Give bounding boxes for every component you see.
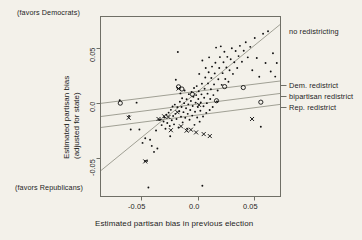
data-point — [180, 116, 182, 118]
data-point — [182, 121, 184, 123]
data-point — [176, 118, 178, 120]
data-point — [254, 37, 256, 39]
ytick-label-0: 0.05 — [88, 48, 97, 62]
data-point — [207, 93, 209, 95]
data-point — [166, 122, 168, 124]
data-point — [187, 103, 189, 105]
data-point — [194, 124, 196, 126]
data-point — [213, 83, 215, 85]
data-point — [259, 100, 263, 104]
data-point — [270, 71, 272, 73]
legend-label-dem-redistrict: Dem. redistrict — [289, 81, 338, 90]
data-point — [232, 73, 234, 75]
data-point — [193, 87, 195, 89]
data-point — [173, 123, 175, 125]
legend-label-rep-redistrict: Rep. redistrict — [289, 103, 336, 112]
data-point — [223, 51, 225, 53]
data-points — [118, 30, 278, 188]
data-point — [163, 120, 165, 122]
data-point — [209, 98, 211, 100]
data-point — [231, 47, 233, 49]
data-point — [203, 97, 205, 99]
data-point — [235, 50, 237, 52]
data-point — [211, 66, 213, 68]
data-point — [223, 61, 225, 63]
data-point — [220, 45, 222, 47]
data-point — [175, 110, 179, 114]
data-point — [205, 67, 207, 69]
legend-label-bipartisan-redistrict: bipartisan redistrict — [289, 92, 353, 101]
data-point — [136, 102, 138, 104]
data-point — [208, 71, 210, 73]
data-point — [245, 41, 247, 43]
data-point — [190, 100, 192, 102]
data-point — [171, 119, 173, 121]
data-point — [260, 126, 262, 128]
data-point — [224, 78, 226, 80]
data-point — [238, 55, 240, 57]
data-point — [226, 56, 228, 58]
data-point — [198, 90, 200, 92]
data-point — [147, 187, 149, 189]
data-point — [239, 45, 241, 47]
data-point — [194, 111, 196, 113]
data-point — [191, 115, 193, 117]
data-point — [201, 60, 203, 62]
data-point — [197, 98, 199, 100]
ytick-label-1: 0.0 — [88, 102, 97, 112]
regression-lines — [101, 24, 281, 171]
data-point — [176, 106, 178, 108]
data-point — [215, 47, 217, 49]
data-point — [258, 76, 260, 78]
data-point — [222, 72, 224, 74]
data-point — [199, 121, 201, 123]
data-point — [204, 77, 206, 79]
fit-line-dem-redistrict — [101, 81, 281, 103]
data-point — [202, 116, 204, 118]
data-point — [256, 57, 258, 59]
data-point — [227, 81, 229, 83]
data-point — [177, 51, 179, 53]
data-point — [208, 134, 212, 138]
data-point — [201, 185, 203, 187]
xtick-label-0: -0.05 — [128, 202, 145, 211]
data-point — [179, 124, 183, 128]
data-point — [207, 82, 209, 84]
data-point — [186, 98, 188, 100]
data-point — [241, 85, 245, 89]
data-point — [144, 137, 146, 139]
xtick-label-1: 0.0 — [189, 202, 200, 211]
data-point — [142, 142, 144, 144]
data-point — [185, 107, 187, 109]
data-point — [225, 67, 227, 69]
data-point — [179, 92, 181, 94]
note-favors-republicans: (favors Republicans) — [15, 183, 83, 192]
ytick-label-2: -0.05 — [88, 159, 97, 176]
data-point — [212, 106, 214, 108]
data-point — [201, 93, 203, 95]
data-point — [209, 109, 211, 111]
data-point — [217, 78, 219, 80]
data-point — [188, 93, 190, 95]
y-axis-title-line2: (adjusted for state) — [72, 92, 82, 159]
data-point — [181, 106, 183, 108]
data-point — [189, 119, 191, 121]
data-point — [272, 52, 274, 54]
data-point — [161, 124, 163, 126]
data-point — [151, 145, 153, 147]
data-point — [214, 72, 216, 74]
data-point — [172, 115, 174, 117]
data-point — [195, 94, 197, 96]
data-point — [118, 101, 122, 105]
data-point — [243, 50, 245, 52]
data-point — [210, 88, 212, 90]
data-point — [170, 109, 172, 111]
data-point — [267, 30, 269, 32]
data-point — [194, 130, 198, 134]
plot-frame — [101, 17, 281, 197]
data-point — [204, 88, 206, 90]
axis-ticks — [97, 49, 255, 201]
data-point — [196, 85, 198, 87]
data-point — [138, 129, 140, 131]
data-point — [169, 125, 171, 127]
